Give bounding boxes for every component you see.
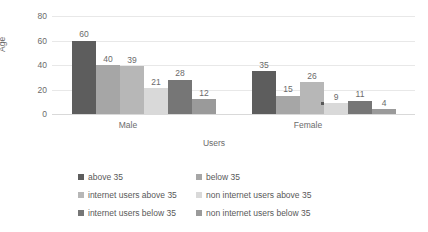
legend-label: internet users below 35: [88, 209, 176, 218]
y-tick-80: 80: [17, 12, 47, 21]
x-category-female: Female: [272, 120, 344, 130]
bar-chart: 80 60 40 20 0 Age 60 40 39 21 28 12 35 1…: [0, 0, 428, 232]
bar-label-female-non-internet-below-35: 4: [372, 99, 396, 108]
legend-swatch-icon: [78, 210, 84, 216]
legend-label: non internet users below 35: [206, 209, 310, 218]
legend-item-internet-users-below-35[interactable]: internet users below 35: [78, 209, 196, 218]
legend-item-non-internet-users-above-35[interactable]: non internet users above 35: [196, 191, 368, 200]
bar-female-internet-below-35: [348, 101, 372, 115]
legend-swatch-icon: [196, 174, 202, 180]
bars-layer: 60 40 39 21 28 12 35 15 26 9 11 4: [52, 16, 415, 114]
bar-male-non-internet-below-35: [192, 99, 216, 114]
legend-swatch-icon: [196, 210, 202, 216]
bar-label-female-below-35: 15: [276, 85, 300, 94]
legend-item-above-35[interactable]: above 35: [78, 173, 196, 182]
y-tick-40: 40: [17, 61, 47, 70]
bar-label-female-non-internet-above-35: 9: [324, 93, 348, 102]
chart-legend: above 35 below 35 internet users above 3…: [78, 168, 368, 222]
bar-female-below-35: [276, 96, 300, 114]
bar-label-female-internet-below-35: 11: [348, 90, 372, 99]
legend-item-internet-users-above-35[interactable]: internet users above 35: [78, 191, 196, 200]
legend-swatch-icon: [78, 192, 84, 198]
bar-label-male-internet-below-35: 28: [168, 69, 192, 78]
bar-male-below-35: [96, 65, 120, 114]
bar-label-female-internet-above-35: 26: [300, 72, 324, 81]
bar-label-male-internet-above-35: 39: [120, 56, 144, 65]
bar-label-female-above-35: 35: [252, 61, 276, 70]
render-artifact: [321, 102, 324, 105]
x-category-male: Male: [92, 120, 164, 130]
x-axis-title: Users: [0, 138, 428, 148]
legend-label: non internet users above 35: [206, 191, 311, 200]
bar-female-internet-above-35: [300, 82, 324, 114]
bar-female-above-35: [252, 71, 276, 114]
legend-label: internet users above 35: [88, 191, 177, 200]
axis-baseline: [52, 114, 415, 115]
bar-male-internet-above-35: [120, 66, 144, 114]
bar-label-male-non-internet-above-35: 21: [144, 78, 168, 87]
legend-item-non-internet-users-below-35[interactable]: non internet users below 35: [196, 209, 368, 218]
legend-swatch-icon: [78, 174, 84, 180]
y-tick-0: 0: [17, 110, 47, 119]
bar-female-non-internet-above-35: [324, 103, 348, 114]
bar-label-male-non-internet-below-35: 12: [192, 89, 216, 98]
legend-swatch-icon: [196, 192, 202, 198]
legend-label: below 35: [206, 173, 240, 182]
bar-label-male-below-35: 40: [96, 55, 120, 64]
bar-male-non-internet-above-35: [144, 88, 168, 114]
legend-label: above 35: [88, 173, 123, 182]
bar-male-above-35: [72, 41, 96, 115]
bar-female-non-internet-below-35: [372, 109, 396, 114]
y-tick-60: 60: [17, 37, 47, 46]
bar-label-male-above-35: 60: [72, 30, 96, 39]
bar-male-internet-below-35: [168, 80, 192, 114]
y-tick-20: 20: [17, 86, 47, 95]
legend-item-below-35[interactable]: below 35: [196, 173, 368, 182]
y-axis-title: Age: [0, 37, 7, 52]
